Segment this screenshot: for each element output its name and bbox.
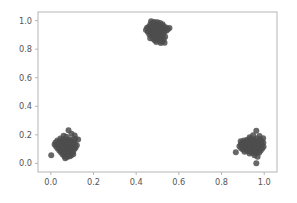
scatter-plot: 0.00.20.40.60.81.00.00.20.40.60.81.0 [0, 0, 297, 203]
y-tick-label: 0.4 [19, 101, 32, 111]
data-point [158, 40, 164, 46]
data-point [255, 143, 261, 149]
figure-canvas: 0.00.20.40.60.81.00.00.20.40.60.81.0 [0, 0, 297, 203]
data-point [245, 142, 251, 148]
x-tick-label: 0.6 [172, 177, 185, 187]
y-tick-label: 0.6 [19, 73, 32, 83]
data-point [253, 160, 259, 166]
y-tick-label: 0.2 [19, 130, 32, 140]
x-tick-label: 0.0 [44, 177, 57, 187]
x-tick-label: 0.4 [130, 177, 143, 187]
x-tick-label: 0.8 [215, 177, 228, 187]
y-tick-label: 0.0 [19, 158, 32, 168]
y-tick-label: 1.0 [19, 16, 32, 26]
data-point [48, 152, 54, 158]
data-point [70, 151, 76, 157]
x-tick-label: 0.2 [87, 177, 100, 187]
data-point [150, 20, 156, 26]
data-point [255, 154, 261, 160]
data-point [165, 26, 171, 32]
data-point [233, 149, 239, 155]
y-tick-label: 0.8 [19, 44, 32, 54]
x-tick-label: 1.0 [258, 177, 271, 187]
